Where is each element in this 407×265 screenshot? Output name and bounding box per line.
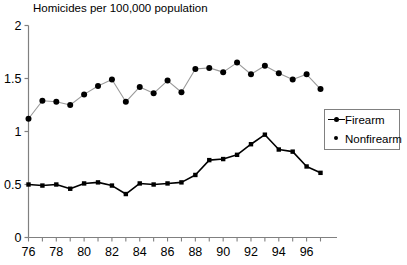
data-point-marker: [221, 157, 225, 161]
data-point-marker: [109, 77, 115, 83]
legend-item-nonfirearm: Nonfirearm: [325, 129, 399, 148]
data-point-marker: [193, 173, 197, 177]
data-point-marker: [165, 181, 169, 185]
data-point-marker: [304, 71, 310, 77]
x-axis: 7678808284868890929496: [22, 238, 337, 259]
data-point-marker: [207, 158, 211, 162]
x-tick-label: 76: [22, 245, 36, 259]
data-point-marker: [68, 187, 72, 191]
legend-item-firearm: Firearm: [325, 110, 399, 129]
data-point-marker: [179, 180, 183, 184]
data-point-marker: [40, 183, 44, 187]
data-point-marker: [123, 99, 129, 105]
x-tick-label: 96: [300, 245, 314, 259]
data-point-marker: [304, 164, 308, 168]
data-point-marker: [206, 65, 212, 71]
y-tick-label: 1: [15, 125, 22, 139]
data-point-marker: [249, 142, 253, 146]
data-point-marker: [96, 180, 100, 184]
data-point-marker: [124, 192, 128, 196]
y-tick-label: 2: [15, 19, 22, 33]
data-point-marker: [262, 63, 268, 69]
data-series-group: [26, 60, 324, 197]
data-point-marker: [110, 183, 114, 187]
x-tick-label: 80: [77, 245, 91, 259]
x-tick-label: 86: [161, 245, 175, 259]
data-point-marker: [151, 182, 155, 186]
data-point-marker: [53, 99, 59, 105]
y-tick-label: 0: [15, 231, 22, 245]
y-tick-label: 0.5: [4, 178, 21, 192]
data-point-marker: [54, 182, 58, 186]
data-point-marker: [220, 69, 226, 75]
data-point-marker: [235, 153, 239, 157]
data-point-marker: [318, 171, 322, 175]
y-tick-label: 1.5: [4, 72, 21, 86]
line-marker-key-icon: [328, 114, 345, 126]
data-point-marker: [192, 66, 198, 72]
series-nonfirearm: [26, 60, 324, 122]
series-firearm: [26, 132, 322, 196]
data-point-marker: [263, 132, 267, 136]
data-point-marker: [67, 102, 73, 108]
data-point-marker: [165, 78, 171, 84]
data-point-marker: [290, 77, 296, 83]
x-tick-label: 94: [272, 245, 286, 259]
x-tick-label: 88: [188, 245, 202, 259]
data-point-marker: [137, 84, 143, 90]
data-point-marker: [26, 182, 30, 186]
data-point-marker: [26, 116, 32, 122]
data-point-marker: [248, 71, 254, 77]
legend-label-nonfirearm: Nonfirearm: [345, 133, 402, 145]
data-point-marker: [178, 89, 184, 95]
dot-marker-key-icon: [328, 133, 345, 145]
y-axis: 00.511.52: [4, 19, 28, 245]
data-point-marker: [318, 86, 324, 92]
data-point-marker: [82, 181, 86, 185]
data-point-marker: [39, 98, 45, 104]
chart-container: Homicides per 100,000 population 00.511.…: [0, 0, 407, 265]
data-point-marker: [277, 147, 281, 151]
data-point-marker: [234, 60, 240, 66]
data-point-marker: [138, 181, 142, 185]
data-point-marker: [151, 90, 157, 96]
legend-label-firearm: Firearm: [345, 114, 385, 126]
data-point-marker: [81, 91, 87, 97]
x-tick-label: 92: [244, 245, 258, 259]
x-tick-label: 82: [105, 245, 119, 259]
chart-legend: Firearm Nonfirearm: [324, 109, 400, 150]
x-tick-label: 84: [133, 245, 147, 259]
data-point-marker: [290, 149, 294, 153]
x-tick-label: 90: [216, 245, 230, 259]
x-tick-label: 78: [49, 245, 63, 259]
data-point-marker: [95, 83, 101, 89]
data-point-marker: [276, 70, 282, 76]
